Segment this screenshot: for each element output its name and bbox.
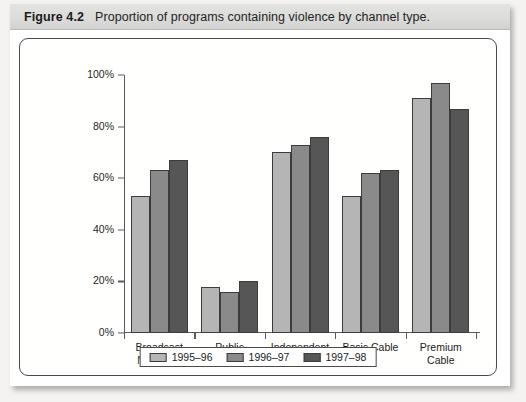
x-axis-label-line: Cable: [406, 354, 476, 367]
bar: [450, 109, 469, 333]
x-tick: [265, 333, 266, 339]
bar: [380, 170, 399, 333]
legend-label: 1997–98: [325, 351, 366, 363]
figure-body: 0%20%40%60%80%100% BroadcastNetworksPubl…: [10, 30, 510, 386]
figure-container: Figure 4.2 Proportion of programs contai…: [10, 4, 510, 386]
figure-caption: Proportion of programs containing violen…: [95, 10, 430, 24]
x-tick: [476, 333, 477, 339]
y-tick-label: 20%: [93, 274, 114, 286]
x-tick: [124, 333, 125, 339]
legend-label: 1996–97: [249, 351, 290, 363]
bar: [220, 292, 239, 333]
bar: [291, 145, 310, 333]
bar: [310, 137, 329, 333]
legend-item: 1997–98: [303, 351, 366, 363]
legend-swatch: [150, 353, 167, 362]
bar-group: [265, 75, 335, 333]
legend-label: 1995–96: [172, 351, 213, 363]
y-tick-label: 60%: [93, 171, 114, 183]
y-tick-label: 0%: [99, 326, 114, 338]
x-tick: [335, 333, 336, 339]
bar-group: [335, 75, 405, 333]
y-tick-label: 40%: [93, 223, 114, 235]
y-tick-label: 100%: [87, 68, 114, 80]
legend-swatch: [303, 353, 320, 362]
bar-group: [406, 75, 476, 333]
figure-number: Figure 4.2: [24, 10, 84, 24]
bar-group: [194, 75, 264, 333]
legend-swatch: [227, 353, 244, 362]
bar: [150, 170, 169, 333]
y-tick-label: 80%: [93, 120, 114, 132]
bar: [361, 173, 380, 333]
chart-legend: 1995–961996–971997–98: [140, 347, 377, 367]
x-tick: [406, 333, 407, 339]
bar: [431, 83, 450, 333]
plot-area: 0%20%40%60%80%100%: [124, 75, 476, 333]
bar-groups: [124, 75, 476, 333]
x-tick: [194, 333, 195, 339]
bar: [239, 281, 258, 333]
bar: [169, 160, 188, 333]
chart-frame: 0%20%40%60%80%100% BroadcastNetworksPubl…: [19, 38, 497, 376]
legend-item: 1996–97: [227, 351, 290, 363]
bar: [201, 287, 220, 333]
bar: [272, 152, 291, 333]
legend-item: 1995–96: [150, 351, 213, 363]
x-axis-label-line: Premium: [406, 341, 476, 354]
figure-header: Figure 4.2 Proportion of programs contai…: [10, 4, 510, 30]
bar: [342, 196, 361, 333]
bar: [131, 196, 150, 333]
bar-group: [124, 75, 194, 333]
x-axis-label: PremiumCable: [406, 341, 476, 366]
bar: [412, 98, 431, 333]
